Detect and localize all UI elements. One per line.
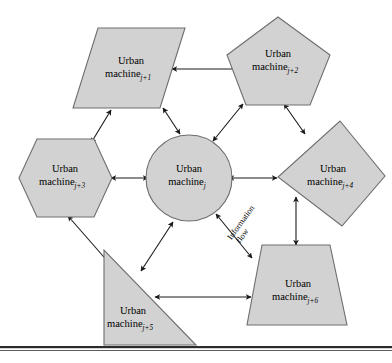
- node-j4-subscript: j+4: [342, 181, 354, 189]
- node-j1-label-line1: Urban: [118, 55, 145, 66]
- node-j1-subscript: j+1: [140, 73, 151, 81]
- node-j6-subscript: j+6: [307, 296, 319, 304]
- node-urban-machine-center[interactable]: Urban machinej: [146, 135, 232, 221]
- node-j4-label-line1: Urban: [320, 163, 347, 174]
- node-j4-word: machine: [307, 176, 343, 187]
- node-j6-label-line1: Urban: [285, 278, 312, 289]
- node-center-label-line1: Urban: [176, 163, 203, 174]
- node-j5-subscript: j+5: [142, 323, 154, 331]
- node-j1-word: machine: [105, 68, 141, 79]
- node-j3-word: machine: [39, 176, 75, 187]
- node-j2-label-line1: Urban: [265, 48, 292, 59]
- node-j6-word: machine: [272, 291, 308, 302]
- node-j2-word: machine: [252, 61, 288, 72]
- node-j2-subscript: j+2: [287, 66, 299, 74]
- node-center-label-line2: machinej: [168, 176, 206, 189]
- diagram-canvas: Urban machinej+1 Urban machinej+2 Urban …: [0, 0, 392, 363]
- page-rule-lower: [0, 350, 392, 351]
- node-center-word: machine: [168, 176, 204, 187]
- node-j3-subscript: j+3: [74, 181, 86, 189]
- node-j5-label-line1: Urban: [120, 305, 147, 316]
- node-urban-machine-j3[interactable]: Urban machinej+3: [19, 139, 112, 217]
- node-center-subscript: j: [203, 181, 206, 189]
- urban-machine-network-diagram: Urban machinej+1 Urban machinej+2 Urban …: [0, 0, 392, 363]
- page-rule-upper: [0, 346, 392, 348]
- node-urban-machine-j6[interactable]: Urban machinej+6: [247, 245, 347, 325]
- node-j5-word: machine: [107, 318, 143, 329]
- node-j3-label-line1: Urban: [52, 163, 79, 174]
